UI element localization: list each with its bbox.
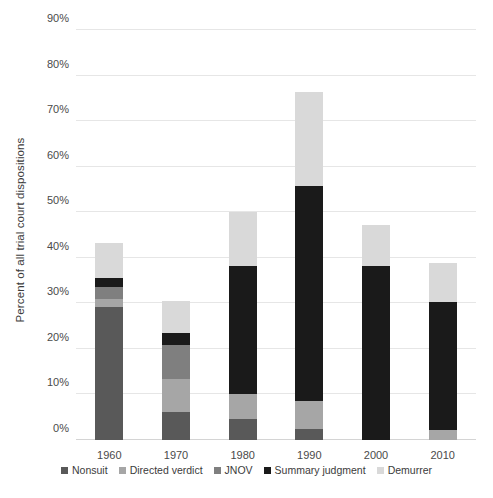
bar-group[interactable]: 1980 <box>229 30 257 440</box>
bar-segment[interactable] <box>229 266 257 395</box>
bar-segment[interactable] <box>95 278 123 287</box>
legend-label: Directed verdict <box>130 464 203 476</box>
bar-segment[interactable] <box>162 333 190 345</box>
bar-stack[interactable] <box>95 243 123 440</box>
y-axis-title-text: Percent of all trial court dispositions <box>14 138 26 323</box>
y-axis-tick-label: 30% <box>47 285 69 297</box>
legend-swatch-icon <box>214 467 221 474</box>
bar-segment[interactable] <box>429 302 457 429</box>
legend-swatch-icon <box>377 467 384 474</box>
bar-segment[interactable] <box>229 212 257 265</box>
legend-swatch-icon <box>61 467 68 474</box>
bar-segment[interactable] <box>162 301 190 333</box>
chart-legend: NonsuitDirected verdictJNOVSummary judgm… <box>0 464 493 476</box>
legend-item[interactable]: Directed verdict <box>119 464 203 476</box>
y-axis-tick-label: 20% <box>47 331 69 343</box>
bars-layer: 196019701980199020002010 <box>76 30 476 440</box>
bar-group[interactable]: 2000 <box>362 30 390 440</box>
y-axis-tick-label: 40% <box>47 240 69 252</box>
x-axis-tick-label: 1970 <box>164 449 188 461</box>
x-axis-tick-label: 1960 <box>97 449 121 461</box>
bar-group[interactable]: 2010 <box>429 30 457 440</box>
bar-group[interactable]: 1970 <box>162 30 190 440</box>
bar-segment[interactable] <box>362 266 390 440</box>
bar-segment[interactable] <box>162 412 190 440</box>
bar-segment[interactable] <box>95 307 123 440</box>
bar-segment[interactable] <box>295 401 323 428</box>
y-axis-tick-label: 60% <box>47 149 69 161</box>
x-axis-tick-label: 1990 <box>297 449 321 461</box>
bar-segment[interactable] <box>429 430 457 440</box>
x-axis-tick-label: 2010 <box>430 449 454 461</box>
bar-segment[interactable] <box>362 225 390 266</box>
legend-label: Demurrer <box>388 464 432 476</box>
bar-stack[interactable] <box>362 225 390 440</box>
bar-segment[interactable] <box>295 186 323 401</box>
legend-label: JNOV <box>225 464 253 476</box>
x-axis-tick-label: 1980 <box>230 449 254 461</box>
bar-segment[interactable] <box>95 243 123 278</box>
legend-label: Nonsuit <box>72 464 108 476</box>
x-axis-tick-label: 2000 <box>364 449 388 461</box>
bar-segment[interactable] <box>95 299 123 307</box>
bar-segment[interactable] <box>295 429 323 440</box>
bar-stack[interactable] <box>429 263 457 440</box>
legend-label: Summary judgment <box>275 464 366 476</box>
legend-item[interactable]: Nonsuit <box>61 464 108 476</box>
legend-item[interactable]: Summary judgment <box>264 464 366 476</box>
y-axis-title: Percent of all trial court dispositions <box>0 0 40 460</box>
bar-group[interactable]: 1960 <box>95 30 123 440</box>
bar-segment[interactable] <box>162 379 190 413</box>
y-axis-tick-label: 10% <box>47 376 69 388</box>
legend-item[interactable]: Demurrer <box>377 464 432 476</box>
legend-item[interactable]: JNOV <box>214 464 253 476</box>
legend-swatch-icon <box>119 467 126 474</box>
plot-area: 0%10%20%30%40%50%60%70%80%90% 1960197019… <box>76 30 476 440</box>
bar-segment[interactable] <box>429 263 457 302</box>
bar-stack[interactable] <box>162 301 190 440</box>
bar-segment[interactable] <box>229 394 257 418</box>
stacked-bar-chart: Percent of all trial court dispositions … <box>0 0 493 498</box>
bar-stack[interactable] <box>295 92 323 440</box>
bar-stack[interactable] <box>229 212 257 440</box>
bar-group[interactable]: 1990 <box>295 30 323 440</box>
bar-segment[interactable] <box>95 287 123 299</box>
bar-segment[interactable] <box>229 419 257 440</box>
y-axis-tick-label: 80% <box>47 58 69 70</box>
y-axis-tick-label: 90% <box>47 12 69 24</box>
y-axis-tick-label: 50% <box>47 194 69 206</box>
bar-segment[interactable] <box>162 345 190 378</box>
y-axis-tick-label: 0% <box>53 422 69 434</box>
legend-swatch-icon <box>264 467 271 474</box>
bar-segment[interactable] <box>295 92 323 185</box>
y-axis-tick-label: 70% <box>47 103 69 115</box>
